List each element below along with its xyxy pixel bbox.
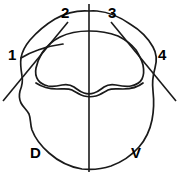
quadrant-label-1: 1: [8, 47, 16, 62]
orientation-label-dorsal: D: [30, 145, 41, 160]
anatomical-outline-figure: 1 2 3 4 D V: [0, 0, 179, 176]
quadrant-label-2: 2: [61, 5, 69, 20]
figure-canvas: [0, 0, 179, 176]
orientation-label-ventral: V: [131, 145, 141, 160]
quadrant-label-4: 4: [158, 47, 166, 62]
inner-ridge-contour: [21, 44, 63, 58]
quadrant-label-3: 3: [108, 5, 116, 20]
